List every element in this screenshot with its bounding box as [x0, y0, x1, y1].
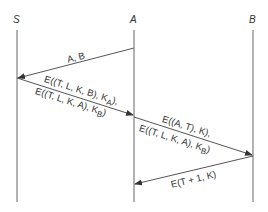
participant-a-label: A: [130, 14, 137, 25]
participant-s-label: S: [13, 14, 20, 25]
sequence-diagram-canvas: [0, 0, 268, 212]
participant-b-label: B: [249, 14, 256, 25]
